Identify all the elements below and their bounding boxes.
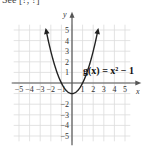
x-tick-label: −1 [57,85,66,94]
x-tick-label: 3 [102,85,106,94]
y-axis-arrow-icon [70,12,75,18]
x-tick-label: 4 [112,85,116,94]
y-tick-label: −5 [60,132,69,141]
y-tick-label: 5 [65,26,69,35]
graph: −5−4−3−2−11234512345−2−3−4−5 g(x) = x² −… [0,0,148,149]
y-axis-label: y [62,10,67,19]
y-tick-label: −4 [60,121,69,130]
y-tick-label: −2 [60,100,69,109]
y-tick-label: 4 [65,37,69,46]
y-tick-label: 1 [65,68,69,77]
x-tick-label: −5 [15,85,24,94]
x-tick-label: −2 [47,85,56,94]
y-tick-label: 2 [65,58,69,67]
y-tick-label: −3 [60,111,69,120]
x-axis-arrow-icon [135,81,141,86]
left-arrow-icon [44,28,49,34]
x-tick-label: 2 [91,85,95,94]
right-arrow-icon [94,28,99,34]
y-tick-label: 3 [65,47,69,56]
x-tick-label: −4 [25,85,34,94]
equation-label: g(x) = x² − 1 [83,65,134,77]
x-tick-label: 5 [123,85,127,94]
x-axis-label: x [135,87,140,96]
x-tick-label: −3 [36,85,45,94]
